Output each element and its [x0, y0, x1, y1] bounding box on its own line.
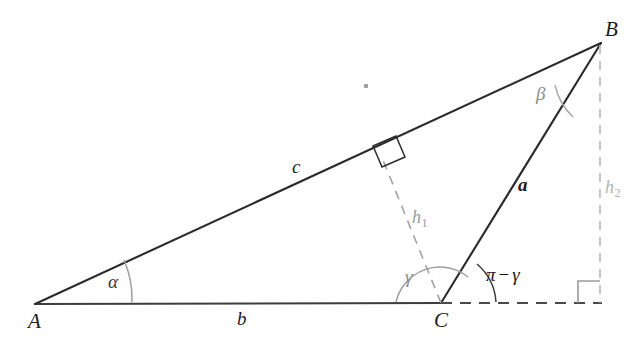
- vertex-label-C: C: [434, 310, 448, 331]
- right-angle-marker-h2: [578, 281, 600, 303]
- angle-label-beta: β: [536, 84, 545, 103]
- pi-symbol: π: [486, 264, 496, 285]
- h1-subscript: 1: [421, 216, 428, 230]
- vertex-label-A: A: [28, 311, 41, 332]
- angle-label-gamma: γ: [405, 267, 413, 286]
- side-a-line: [441, 43, 601, 303]
- angle-arc-alpha: [124, 260, 132, 302]
- h1-base: h: [412, 207, 421, 227]
- triangle-figure: A B C b c a α β γ π−γ h1 h2: [0, 0, 639, 346]
- side-label-b: b: [237, 309, 247, 328]
- h2-subscript: 2: [614, 186, 621, 200]
- h2-base: h: [605, 177, 614, 197]
- figure-canvas: [0, 0, 639, 346]
- side-label-c: c: [292, 157, 300, 176]
- height-label-h1: h1: [412, 208, 428, 229]
- scan-speck: [364, 84, 368, 88]
- vertex-label-B: B: [605, 19, 618, 40]
- angle-label-pi-minus-gamma: π−γ: [486, 265, 520, 284]
- angle-label-alpha: α: [108, 272, 118, 291]
- gamma-symbol: γ: [512, 264, 520, 285]
- side-b-line: [35, 303, 441, 304]
- height-label-h2: h2: [605, 178, 621, 199]
- side-label-a: a: [518, 175, 528, 194]
- minus-symbol: −: [496, 264, 513, 285]
